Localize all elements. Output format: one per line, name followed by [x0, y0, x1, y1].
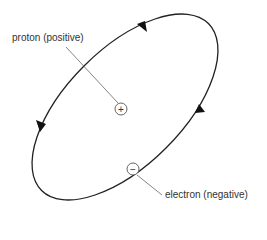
- proton-leader: [66, 47, 118, 103]
- proton-symbol: +: [118, 104, 124, 115]
- proton-label: proton (positive): [12, 32, 84, 43]
- electron-symbol: −: [130, 164, 136, 175]
- arrow-left: [36, 120, 46, 132]
- arrow-right: [195, 104, 205, 113]
- electron-label: electron (negative): [165, 189, 248, 200]
- electron-leader: [137, 175, 162, 195]
